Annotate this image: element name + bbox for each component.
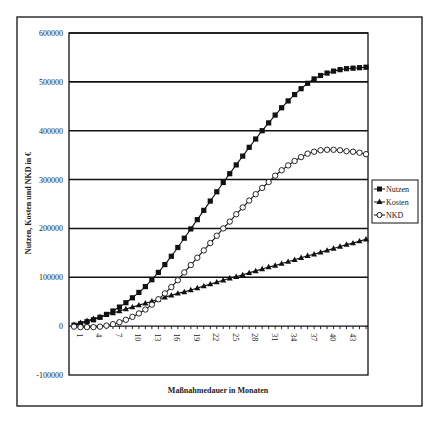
data-point (337, 67, 342, 72)
data-point (350, 66, 355, 71)
svg-text:Kosten: Kosten (386, 198, 409, 207)
data-point (201, 208, 206, 213)
data-point (221, 226, 226, 231)
x-tick-label: 37 (309, 333, 318, 341)
data-point (240, 154, 245, 159)
data-point (240, 205, 245, 210)
svg-text:NKD: NKD (386, 211, 404, 220)
data-point (71, 324, 76, 329)
data-point (344, 149, 349, 154)
data-point (188, 262, 193, 267)
data-point (143, 284, 148, 289)
data-point (175, 245, 180, 250)
y-tick-label: 400000 (39, 127, 63, 136)
data-point (78, 324, 83, 329)
data-point (201, 248, 206, 253)
data-point (149, 302, 154, 307)
data-point (130, 295, 135, 300)
square-marker-icon (377, 187, 382, 192)
data-point (84, 324, 89, 329)
data-point (247, 145, 252, 150)
x-axis-label: Maßnahmedauer in Monaten (168, 386, 269, 395)
data-point (169, 284, 174, 289)
data-point (247, 198, 252, 203)
x-tick-label: 43 (348, 333, 357, 341)
data-point (162, 291, 167, 296)
data-point (214, 189, 219, 194)
x-tick-label: 31 (270, 333, 279, 341)
data-point (195, 217, 200, 222)
data-point (357, 65, 362, 70)
data-point (273, 112, 278, 117)
data-point (97, 324, 102, 329)
x-tick-label: 4 (94, 333, 103, 337)
data-point (136, 311, 141, 316)
circle-marker-icon (377, 212, 382, 217)
data-point (234, 162, 239, 167)
data-point (136, 290, 141, 295)
x-tick-label: 7 (114, 333, 123, 337)
data-point (298, 154, 303, 159)
data-point (311, 149, 316, 154)
x-tick-label: 34 (289, 333, 298, 341)
data-point (143, 307, 148, 312)
data-point (182, 270, 187, 275)
y-tick-label: 300000 (39, 176, 63, 185)
y-tick-label: 600000 (39, 29, 63, 38)
data-point (331, 69, 336, 74)
data-point (221, 180, 226, 185)
data-point (234, 212, 239, 217)
data-point (91, 324, 96, 329)
data-point (253, 192, 258, 197)
x-tick-label: 28 (250, 333, 259, 341)
data-point (344, 66, 349, 71)
data-point (123, 300, 128, 305)
data-point (188, 226, 193, 231)
data-point (130, 314, 135, 319)
data-point (208, 198, 213, 203)
data-point (286, 98, 291, 103)
data-point (123, 317, 128, 322)
legend: Nutzen Kosten NKD (372, 180, 418, 223)
data-point (259, 185, 264, 190)
data-point (110, 321, 115, 326)
svg-text:Nutzen: Nutzen (386, 185, 409, 194)
data-point (299, 86, 304, 91)
data-point (169, 254, 174, 259)
data-point (292, 158, 297, 163)
y-axis-ticks: 6000005000004000003000002000001000000-10… (36, 29, 63, 380)
data-point (156, 270, 161, 275)
data-point (305, 151, 310, 156)
x-tick-label: 25 (231, 333, 240, 341)
data-point (331, 147, 336, 152)
y-tick-label: -100000 (36, 371, 63, 380)
data-point (195, 255, 200, 260)
data-point (104, 323, 109, 328)
data-point (324, 70, 329, 75)
y-tick-label: 200000 (39, 224, 63, 233)
data-point (208, 240, 213, 245)
data-point (279, 168, 284, 173)
data-point (227, 171, 232, 176)
x-tick-label: 22 (211, 333, 220, 341)
x-tick-label: 10 (133, 333, 142, 341)
data-point (214, 233, 219, 238)
data-point (311, 76, 316, 81)
data-point (292, 92, 297, 97)
data-point (227, 219, 232, 224)
y-tick-label: 0 (59, 322, 63, 331)
data-point (260, 128, 265, 133)
data-point (363, 65, 368, 70)
data-point (266, 179, 271, 184)
data-point (149, 277, 154, 282)
data-point (266, 120, 271, 125)
data-point (363, 151, 368, 156)
chart-canvas: 6000005000004000003000002000001000000-10… (0, 0, 434, 421)
x-tick-label: 40 (328, 333, 337, 341)
data-point (318, 73, 323, 78)
data-point (253, 136, 258, 141)
y-axis-label: Nutzen, Kosten und NKD in € (24, 152, 33, 254)
data-point (279, 105, 284, 110)
data-point (162, 262, 167, 267)
data-point (337, 148, 342, 153)
